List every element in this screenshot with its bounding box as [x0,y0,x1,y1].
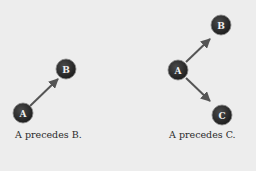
node-b: B [56,59,76,79]
diagram-a-precedes-c: B A C [168,15,232,125]
node-a: A [13,103,33,123]
node-c: C [212,105,232,125]
edge-a-to-b [186,39,210,62]
edge-a-to-c [186,78,210,101]
node-b-label: B [62,65,70,75]
caption-right: A precedes C. [169,129,236,140]
node-a-label: A [19,109,28,119]
edge-a-to-b [30,79,58,106]
node-b: B [211,15,231,35]
node-b-label: B [217,21,225,31]
node-a-label: A [174,66,183,76]
diagram-a-precedes-b: B A [13,59,76,123]
node-c-label: C [218,111,225,121]
node-a: A [168,60,188,80]
diagram-canvas: B A B A C [0,0,256,171]
caption-left: A precedes B. [15,129,82,140]
